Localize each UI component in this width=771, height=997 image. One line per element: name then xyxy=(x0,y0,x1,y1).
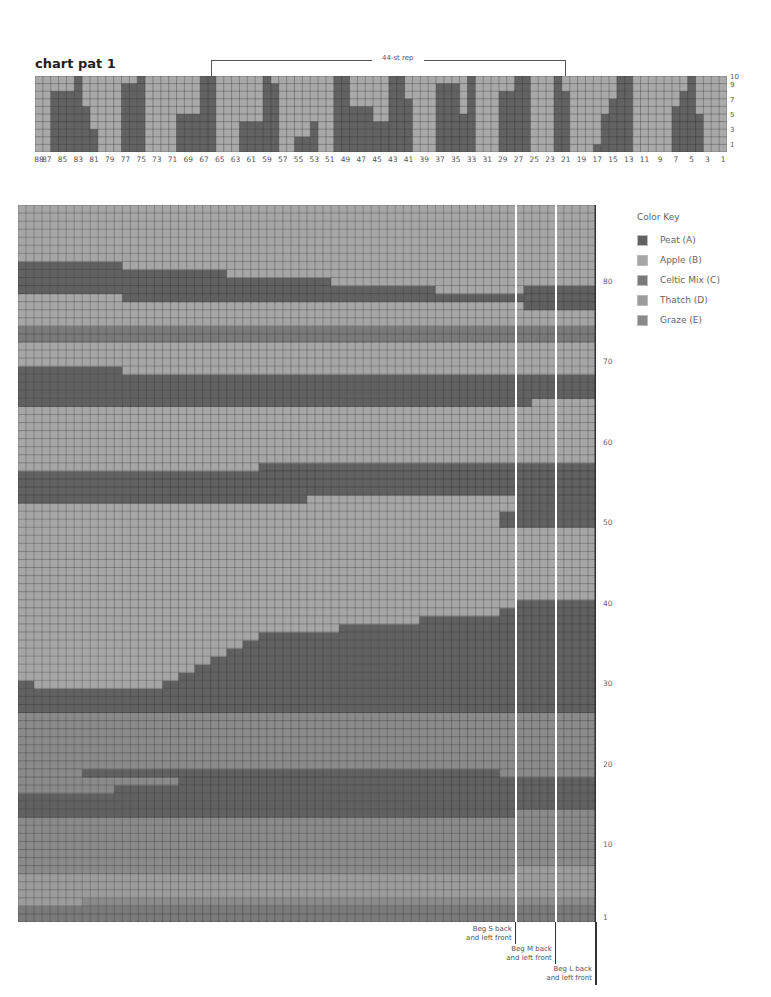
row-label: 20 xyxy=(603,760,613,769)
size-marker-tick xyxy=(515,922,517,944)
column-label: 75 xyxy=(136,155,146,164)
color-key: Color Key Peat (A) Apple (B) Celtic Mix … xyxy=(637,212,720,330)
column-label: 43 xyxy=(388,155,398,164)
column-label: 77 xyxy=(121,155,131,164)
repeat-bracket xyxy=(211,60,566,77)
column-label: 1 xyxy=(721,155,726,164)
column-label: 23 xyxy=(545,155,555,164)
column-label: 19 xyxy=(577,155,587,164)
size-line xyxy=(555,205,557,922)
column-label: 59 xyxy=(262,155,272,164)
column-label: 83 xyxy=(73,155,83,164)
column-label: 45 xyxy=(372,155,382,164)
apple-swatch-icon xyxy=(637,255,648,266)
column-label: 37 xyxy=(435,155,445,164)
row-label: 1 xyxy=(603,913,608,922)
column-label: 21 xyxy=(561,155,571,164)
column-label: 51 xyxy=(325,155,335,164)
column-label: 27 xyxy=(514,155,524,164)
column-label: 57 xyxy=(278,155,288,164)
key-label: Graze (E) xyxy=(660,315,702,325)
row-label: 30 xyxy=(603,679,613,688)
row-label: 60 xyxy=(603,438,613,447)
key-item-graze: Graze (E) xyxy=(637,310,720,330)
column-label: 29 xyxy=(498,155,508,164)
peat-swatch-icon xyxy=(637,235,648,246)
column-label: 81 xyxy=(89,155,99,164)
column-label: 15 xyxy=(608,155,618,164)
row-label: 50 xyxy=(603,518,613,527)
size-line xyxy=(515,205,517,922)
column-label: 33 xyxy=(467,155,477,164)
column-label: 69 xyxy=(184,155,194,164)
row-label: 70 xyxy=(603,357,613,366)
key-item-thatch: Thatch (D) xyxy=(637,290,720,310)
column-label: 13 xyxy=(624,155,634,164)
key-item-celtic-mix: Celtic Mix (C) xyxy=(637,270,720,290)
row-label: 80 xyxy=(603,277,613,286)
column-label: 55 xyxy=(294,155,304,164)
key-item-peat: Peat (A) xyxy=(637,230,720,250)
key-item-apple: Apple (B) xyxy=(637,250,720,270)
row-label: 7 xyxy=(730,96,734,104)
column-label: 17 xyxy=(592,155,602,164)
size-marker-label: Beg S backand left front xyxy=(446,925,512,943)
column-label: 79 xyxy=(105,155,115,164)
column-label: 7 xyxy=(673,155,678,164)
key-label: Thatch (D) xyxy=(660,295,708,305)
size-marker-label: Beg M backand left front xyxy=(486,945,552,963)
row-label: 9 xyxy=(730,81,734,89)
size-marker-tick xyxy=(555,922,557,964)
column-label: 11 xyxy=(640,155,650,164)
size-marker-label: Beg L backand left front xyxy=(526,965,592,983)
main-colorwork-chart xyxy=(18,205,596,922)
color-key-title: Color Key xyxy=(637,212,720,222)
column-label: 3 xyxy=(705,155,710,164)
column-label: 63 xyxy=(231,155,241,164)
column-label: 9 xyxy=(658,155,663,164)
row-label: 40 xyxy=(603,599,613,608)
column-label: 73 xyxy=(152,155,162,164)
column-label: 85 xyxy=(58,155,68,164)
key-label: Celtic Mix (C) xyxy=(660,275,720,285)
column-label: 5 xyxy=(689,155,694,164)
column-label: 67 xyxy=(199,155,209,164)
row-label: 1 xyxy=(730,141,734,149)
celtic-mix-swatch-icon xyxy=(637,275,648,286)
top-chart-column-labels: 8887858381797775737169676563615957555351… xyxy=(35,155,735,165)
row-label: 10 xyxy=(730,73,739,81)
column-label: 71 xyxy=(168,155,178,164)
column-label: 49 xyxy=(341,155,351,164)
column-label: 87 xyxy=(42,155,52,164)
column-label: 25 xyxy=(530,155,540,164)
row-label: 5 xyxy=(730,111,734,119)
column-label: 35 xyxy=(451,155,461,164)
column-label: 31 xyxy=(482,155,492,164)
column-label: 65 xyxy=(215,155,225,164)
thatch-swatch-icon xyxy=(637,295,648,306)
column-label: 53 xyxy=(309,155,319,164)
graze-swatch-icon xyxy=(637,315,648,326)
row-label: 10 xyxy=(603,840,613,849)
chart-title: chart pat 1 xyxy=(35,56,116,71)
top-colorwork-chart xyxy=(35,76,727,152)
column-label: 61 xyxy=(246,155,256,164)
row-label: 3 xyxy=(730,126,734,134)
key-label: Apple (B) xyxy=(660,255,702,265)
column-label: 41 xyxy=(404,155,414,164)
size-marker-tick xyxy=(595,922,597,985)
column-label: 39 xyxy=(419,155,429,164)
key-label: Peat (A) xyxy=(660,235,696,245)
column-label: 47 xyxy=(357,155,367,164)
repeat-label: 44-st rep xyxy=(372,54,424,62)
